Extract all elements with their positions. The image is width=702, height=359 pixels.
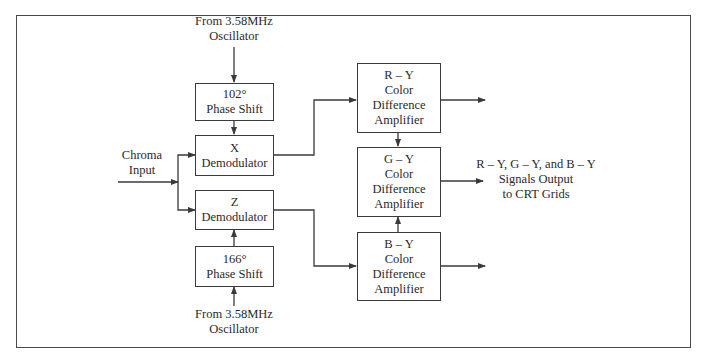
r-y-amplifier-line2: Color [385,83,413,98]
output-label: R – Y, G – Y, and B – Y Signals Output t… [462,157,610,202]
output-line2: Signals Output [462,172,610,187]
oscillator-bottom-label: From 3.58MHz Oscillator [184,307,284,337]
b-y-amplifier-line3: Difference [372,267,425,282]
phase-shift-102-block: 102° Phase Shift [195,83,274,121]
g-y-amplifier-line4: Amplifier [374,197,423,212]
chroma-input-line1: Chroma [112,148,172,163]
z-demodulator-block: Z Demodulator [195,190,274,230]
g-y-amplifier-title: G – Y [384,152,414,167]
r-y-amplifier-line4: Amplifier [374,113,423,128]
phase-shift-166-label: Phase Shift [206,267,263,282]
g-y-amplifier-line3: Difference [372,182,425,197]
phase-shift-166-block: 166° Phase Shift [195,246,274,287]
b-y-amplifier-line4: Amplifier [374,282,423,297]
z-demodulator-letter: Z [231,195,239,210]
x-demodulator-block: X Demodulator [195,135,274,176]
wire-chroma-to-x [178,155,195,182]
r-y-amplifier-title: R – Y [384,68,413,83]
b-y-amplifier-line2: Color [385,252,413,267]
x-demodulator-label: Demodulator [202,156,268,171]
phase-shift-166-angle: 166° [223,252,247,267]
oscillator-top-label: From 3.58MHz Oscillator [184,14,284,44]
chroma-input-label: Chroma Input [112,148,172,178]
phase-shift-102-label: Phase Shift [206,102,263,117]
oscillator-top-line1: From 3.58MHz [184,14,284,29]
z-demodulator-label: Demodulator [202,210,268,225]
b-y-amplifier-title: B – Y [384,237,413,252]
r-y-amplifier-block: R – Y Color Difference Amplifier [357,63,441,133]
wire-chroma-to-z [178,182,195,210]
wire-z-to-by [273,210,356,266]
oscillator-top-line2: Oscillator [184,29,284,44]
output-line1: R – Y, G – Y, and B – Y [462,157,610,172]
chroma-input-line2: Input [112,163,172,178]
oscillator-bottom-line1: From 3.58MHz [184,307,284,322]
g-y-amplifier-line2: Color [385,167,413,182]
wire-x-to-ry [273,100,356,155]
output-line3: to CRT Grids [462,187,610,202]
r-y-amplifier-line3: Difference [372,98,425,113]
phase-shift-102-angle: 102° [223,87,247,102]
x-demodulator-letter: X [230,141,239,156]
g-y-amplifier-block: G – Y Color Difference Amplifier [357,147,441,217]
oscillator-bottom-line2: Oscillator [184,322,284,337]
b-y-amplifier-block: B – Y Color Difference Amplifier [357,232,441,301]
